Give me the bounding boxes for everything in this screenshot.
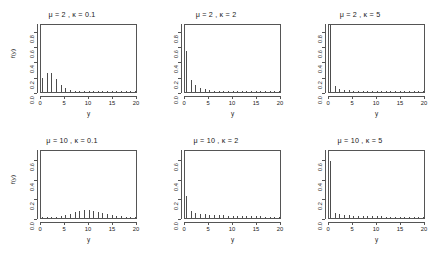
x-tick <box>208 96 209 99</box>
y-axis-label: f(y) <box>9 175 16 184</box>
bar <box>228 216 229 218</box>
bar <box>186 196 187 218</box>
chart-panel-3: μ = 2 , κ = 50.00.20.40.60.805101520y <box>288 0 432 126</box>
bar <box>42 217 43 218</box>
x-tick <box>328 222 329 225</box>
x-tick-label: 10 <box>369 226 383 232</box>
bar <box>79 91 80 92</box>
bar <box>61 85 62 92</box>
bar <box>363 216 364 218</box>
bar <box>279 91 280 92</box>
y-axis-line <box>37 150 38 219</box>
x-tick <box>112 96 113 99</box>
bar <box>75 212 76 218</box>
x-tick <box>256 222 257 225</box>
x-tick <box>136 96 137 99</box>
x-tick-label: 5 <box>57 100 71 106</box>
bar <box>349 90 350 92</box>
bar <box>47 217 48 218</box>
y-tick-label-wrap: 0.0 <box>160 215 176 223</box>
bar <box>358 216 359 218</box>
plot-area <box>185 25 280 92</box>
panel-title: μ = 10 , κ = 5 <box>288 136 432 145</box>
x-tick <box>424 96 425 99</box>
bar <box>414 217 415 218</box>
bar <box>353 91 354 92</box>
x-tick-label: 10 <box>81 226 95 232</box>
bar <box>84 210 85 218</box>
x-tick-label: 15 <box>105 100 119 106</box>
x-tick-label: 15 <box>393 100 407 106</box>
x-axis-label: y <box>328 236 425 243</box>
chart-panel-4: μ = 10 , κ = 0.10.00.20.40.6f(y)05101520… <box>0 126 144 252</box>
y-tick-label-wrap: 0.2 <box>160 195 176 203</box>
bar <box>121 216 122 218</box>
bar <box>214 91 215 92</box>
panel-title: μ = 10 , κ = 0.1 <box>0 136 144 145</box>
y-tick-label-wrap: 0.6 <box>304 156 320 164</box>
y-axis-line <box>325 150 326 219</box>
x-tick <box>40 222 41 225</box>
bar <box>404 217 405 218</box>
x-tick-label: 5 <box>201 100 215 106</box>
bar <box>89 210 90 218</box>
bar <box>79 211 80 218</box>
y-tick-label: 0.4 <box>317 179 323 195</box>
panel-title: μ = 2 , κ = 5 <box>288 10 432 19</box>
plot-frame <box>184 150 281 219</box>
bar <box>270 217 271 218</box>
x-axis-label: y <box>40 236 137 243</box>
y-tick-label-wrap: 0.8 <box>160 28 176 36</box>
x-tick-label: 10 <box>225 100 239 106</box>
y-tick-label: 0.4 <box>173 179 179 195</box>
x-tick <box>64 222 65 225</box>
y-tick-label: 0.6 <box>317 159 323 175</box>
x-tick-label: 10 <box>81 100 95 106</box>
y-axis-line <box>325 24 326 93</box>
bar <box>191 80 192 92</box>
bar <box>367 216 368 218</box>
y-tick-label-wrap: 0.4 <box>304 176 320 184</box>
y-tick-label: 0.4 <box>173 61 179 77</box>
bar <box>344 90 345 92</box>
y-tick-label-wrap: 0.4 <box>160 176 176 184</box>
y-tick-label: 0.2 <box>317 77 323 93</box>
bar <box>228 91 229 92</box>
y-axis-line <box>37 24 38 93</box>
y-tick-label-wrap: 0.6 <box>160 156 176 164</box>
bar <box>395 217 396 218</box>
x-tick-label: 15 <box>105 226 119 232</box>
y-tick-label: 0.4 <box>29 179 35 195</box>
bar <box>349 215 350 218</box>
y-tick-label: 0.8 <box>29 31 35 47</box>
y-tick-label-wrap: 0.2 <box>304 195 320 203</box>
x-tick-label: 20 <box>273 100 287 106</box>
bar <box>390 217 391 218</box>
bar <box>260 216 261 218</box>
x-tick-label: 20 <box>417 100 431 106</box>
bar <box>93 211 94 218</box>
y-tick-label: 0.2 <box>29 198 35 214</box>
bar <box>404 91 405 92</box>
bar <box>233 216 234 218</box>
bar <box>102 91 103 92</box>
bar <box>251 216 252 218</box>
bar <box>205 89 206 92</box>
bar <box>423 91 424 92</box>
bar <box>233 91 234 92</box>
y-tick-label: 0.6 <box>317 46 323 62</box>
y-tick-label: 0.6 <box>29 46 35 62</box>
x-tick <box>280 222 281 225</box>
x-tick-label: 20 <box>273 226 287 232</box>
bar <box>93 91 94 92</box>
y-tick-label: 0.8 <box>317 31 323 47</box>
bar <box>367 91 368 92</box>
y-axis-line <box>181 150 182 219</box>
bar <box>98 212 99 218</box>
bar <box>339 89 340 92</box>
bar <box>116 216 117 218</box>
x-tick-label: 15 <box>249 100 263 106</box>
bar <box>274 217 275 218</box>
bar <box>344 215 345 218</box>
plot-frame <box>184 24 281 93</box>
